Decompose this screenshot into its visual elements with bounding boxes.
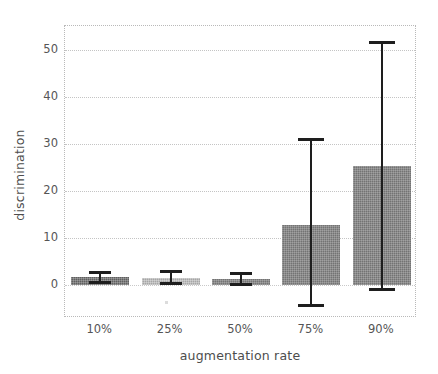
y-tick-label-50: 50: [22, 42, 58, 56]
x-tick-label-25pct: 25%: [135, 322, 205, 336]
error-bar-cap-lower-25pct: [160, 282, 182, 285]
gridline-y-40: [65, 97, 415, 98]
y-tick-label-0: 0: [22, 277, 58, 291]
y-tick-label-10: 10: [22, 230, 58, 244]
x-tick-label-75pct: 75%: [275, 322, 345, 336]
error-bar-cap-upper-25pct: [160, 270, 182, 273]
error-bar-cap-upper-90pct: [369, 41, 395, 44]
chart-figure: discrimination augmentation rate 0102030…: [0, 0, 438, 374]
y-tick-label-30: 30: [22, 136, 58, 150]
y-tick-label-40: 40: [22, 89, 58, 103]
error-bar-cap-lower-75pct: [298, 304, 324, 307]
error-bar-stem-90pct: [381, 42, 383, 289]
scan-artifact-speck: [165, 301, 168, 304]
error-bar-cap-lower-90pct: [369, 288, 395, 291]
plot-area: [64, 25, 416, 317]
x-tick-label-50pct: 50%: [205, 322, 275, 336]
x-axis-label: augmentation rate: [64, 348, 416, 363]
x-tick-label-90pct: 90%: [346, 322, 416, 336]
y-tick-label-20: 20: [22, 183, 58, 197]
x-tick-label-10pct: 10%: [64, 322, 134, 336]
error-bar-cap-lower-10pct: [89, 281, 111, 284]
error-bar-cap-upper-75pct: [298, 138, 324, 141]
error-bar-cap-upper-50pct: [230, 272, 252, 275]
gridline-y-30: [65, 144, 415, 145]
gridline-y-50: [65, 50, 415, 51]
error-bar-stem-75pct: [310, 139, 312, 305]
error-bar-cap-upper-10pct: [89, 271, 111, 274]
error-bar-cap-lower-50pct: [230, 283, 252, 286]
